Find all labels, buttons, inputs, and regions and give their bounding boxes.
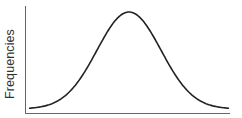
chart <box>0 0 242 118</box>
y-axis-label-container: Frequencies <box>2 34 18 94</box>
bell-curve <box>29 12 229 108</box>
y-axis-label: Frequencies <box>3 29 17 99</box>
